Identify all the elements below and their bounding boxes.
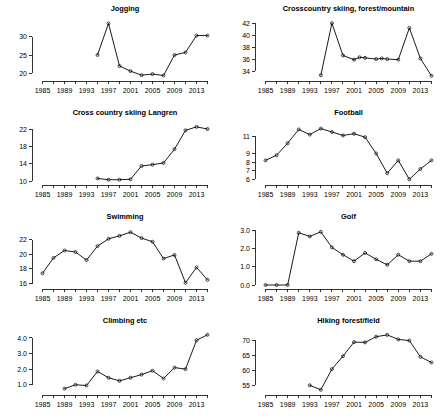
- x-tick-label: 1997: [324, 401, 340, 408]
- y-tick-label: 55: [242, 382, 250, 389]
- x-tick-label: 2005: [368, 401, 384, 408]
- y-tick-label: 9: [246, 150, 250, 157]
- x-tick-label: 1985: [258, 295, 274, 302]
- y-tick-label: 18: [19, 265, 27, 272]
- panel-golf: Golf198519891993199720012005200920130.01…: [223, 208, 447, 312]
- panel-cross-country-skiing-langren: Cross country skiing Langren198519891993…: [0, 104, 223, 208]
- y-tick-label: 34: [242, 68, 250, 75]
- x-tick-label: 2009: [167, 191, 183, 198]
- x-tick-label: 2005: [145, 87, 161, 94]
- x-tick-label: 1997: [324, 191, 340, 198]
- y-tick-label: 65: [242, 352, 250, 359]
- x-tick-label: 1993: [79, 191, 95, 198]
- x-tick-label: 1989: [280, 191, 296, 198]
- x-tick-label: 1993: [302, 295, 318, 302]
- y-tick-label: 20: [19, 70, 27, 77]
- x-tick-label: 2001: [123, 401, 139, 408]
- x-tick-label: 2009: [390, 87, 406, 94]
- x-tick-label: 1985: [258, 87, 274, 94]
- y-tick-label: 14: [19, 160, 27, 167]
- x-tick-label: 2005: [145, 295, 161, 302]
- panel-title: Jogging: [111, 4, 140, 13]
- panel-title: Swimming: [107, 212, 144, 221]
- x-tick-label: 1993: [79, 87, 95, 94]
- y-tick-label: 40: [242, 32, 250, 39]
- x-tick-label: 2005: [368, 87, 384, 94]
- panel-hiking-forest-field: Hiking forest/field198519891993199720012…: [223, 312, 447, 418]
- x-tick-label: 2009: [167, 295, 183, 302]
- y-tick-label: 20: [19, 251, 27, 258]
- series-line: [310, 335, 432, 390]
- series-line: [98, 127, 208, 180]
- x-tick-label: 2005: [145, 401, 161, 408]
- x-tick-label: 1993: [302, 191, 318, 198]
- y-tick-label: 36: [242, 56, 250, 63]
- x-tick-label: 2009: [167, 401, 183, 408]
- x-tick-label: 1989: [57, 401, 73, 408]
- x-tick-label: 2013: [189, 401, 205, 408]
- panel-title: Hiking forest/field: [317, 316, 380, 325]
- x-tick-label: 2001: [346, 87, 362, 94]
- panel-title: Golf: [341, 212, 356, 221]
- x-tick-label: 1989: [57, 87, 73, 94]
- panel-title: Crosscountry skiing, forest/mountain: [283, 4, 415, 13]
- series-line: [321, 23, 432, 76]
- y-tick-label: 22: [19, 236, 27, 243]
- x-tick-label: 2001: [346, 191, 362, 198]
- y-tick-label: 22: [19, 126, 27, 133]
- y-tick-label: 30: [19, 33, 27, 40]
- y-tick-label: 70: [242, 337, 250, 344]
- panel-title: Cross country skiing Langren: [73, 108, 178, 117]
- x-tick-label: 2009: [390, 401, 406, 408]
- x-tick-label: 2009: [390, 191, 406, 198]
- x-tick-label: 1989: [57, 191, 73, 198]
- y-tick-label: 2.0: [17, 366, 27, 373]
- y-tick-label: 2.0: [240, 245, 250, 252]
- panel-climbing-etc: Climbing etc1985198919931997200120052009…: [0, 312, 223, 418]
- x-tick-label: 1997: [101, 87, 117, 94]
- y-tick-label: 60: [242, 367, 250, 374]
- y-tick-label: 11: [243, 133, 250, 140]
- x-tick-label: 1985: [35, 295, 51, 302]
- panel-football: Football19851989199319972001200520092013…: [223, 104, 447, 208]
- y-tick-label: 3.0: [240, 227, 250, 234]
- x-tick-label: 1997: [101, 191, 117, 198]
- y-tick-label: 18: [19, 143, 27, 150]
- series-line: [65, 335, 208, 389]
- x-tick-label: 1993: [302, 87, 318, 94]
- x-tick-label: 2013: [413, 295, 429, 302]
- series-line: [266, 232, 432, 285]
- plot-grid: Jogging198519891993199720012005200920132…: [0, 0, 447, 418]
- panel-title: Football: [334, 108, 363, 117]
- x-tick-label: 2005: [368, 295, 384, 302]
- x-tick-label: 2013: [413, 87, 429, 94]
- y-tick-label: 25: [19, 52, 27, 59]
- x-tick-label: 1989: [57, 295, 73, 302]
- panel-swimming: Swimming19851989199319972001200520092013…: [0, 208, 223, 312]
- x-tick-label: 2001: [346, 295, 362, 302]
- x-tick-label: 1985: [258, 191, 274, 198]
- x-tick-label: 1993: [79, 401, 95, 408]
- x-tick-label: 2013: [413, 191, 429, 198]
- x-tick-label: 1989: [280, 401, 296, 408]
- x-tick-label: 1997: [324, 295, 340, 302]
- y-tick-label: 8: [246, 159, 250, 166]
- x-tick-label: 1997: [101, 401, 117, 408]
- x-tick-label: 2001: [123, 191, 139, 198]
- x-tick-label: 1985: [258, 401, 274, 408]
- x-tick-label: 2013: [413, 401, 429, 408]
- panel-crosscountry-skiing-forest-mountain: Crosscountry skiing, forest/mountain1985…: [223, 0, 447, 104]
- y-tick-label: 16: [19, 280, 27, 287]
- y-tick-label: 6: [246, 176, 250, 183]
- x-tick-label: 1997: [101, 295, 117, 302]
- y-tick-label: 1.0: [240, 263, 250, 270]
- x-tick-label: 2001: [123, 87, 139, 94]
- x-tick-label: 1993: [79, 295, 95, 302]
- y-tick-label: 0.0: [240, 282, 250, 289]
- y-tick-label: 38: [242, 44, 250, 51]
- x-tick-label: 2013: [189, 87, 205, 94]
- x-tick-label: 2013: [189, 295, 205, 302]
- y-tick-label: 1.0: [17, 381, 27, 388]
- x-tick-label: 1993: [302, 401, 318, 408]
- y-tick-label: 4.0: [17, 335, 27, 342]
